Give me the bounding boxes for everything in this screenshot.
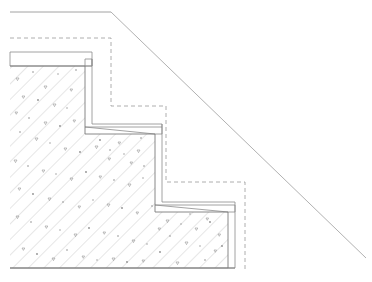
aggregate-mark bbox=[32, 71, 34, 73]
aggregate-mark bbox=[199, 245, 200, 246]
step-nosing-upper bbox=[85, 59, 92, 66]
aggregate-mark bbox=[66, 107, 67, 108]
aggregate-mark bbox=[28, 117, 30, 119]
concrete-body-group bbox=[10, 66, 228, 268]
aggregate-mark bbox=[27, 165, 29, 167]
aggregate-mark bbox=[19, 131, 21, 133]
aggregate-mark bbox=[209, 221, 211, 223]
aggregate-mark bbox=[36, 253, 38, 255]
concrete-hatch-fill bbox=[10, 66, 228, 268]
right-closure-line bbox=[228, 205, 235, 268]
aggregate-mark bbox=[123, 153, 124, 154]
aggregate-mark bbox=[30, 221, 32, 223]
aggregate-mark bbox=[204, 259, 206, 261]
aggregate-mark bbox=[117, 235, 119, 237]
aggregate-mark bbox=[143, 165, 145, 167]
aggregate-mark bbox=[126, 261, 128, 263]
aggregate-mark bbox=[59, 229, 60, 230]
step-nosing-lower bbox=[155, 205, 235, 212]
aggregate-mark bbox=[169, 235, 171, 237]
upper-ledge-rectangle bbox=[10, 52, 92, 66]
riser-outline-upper bbox=[92, 59, 162, 127]
aggregate-mark bbox=[113, 179, 115, 181]
aggregate-mark bbox=[151, 205, 153, 207]
cad-drawing-svg bbox=[0, 0, 372, 282]
aggregate-mark bbox=[62, 201, 64, 203]
aggregate-mark bbox=[121, 207, 123, 209]
aggregate-mark bbox=[180, 223, 181, 224]
aggregate-mark bbox=[189, 213, 190, 214]
aggregate-mark bbox=[142, 177, 143, 178]
aggregate-mark bbox=[55, 173, 56, 174]
aggregate-mark bbox=[96, 259, 97, 260]
riser-outline-lower bbox=[162, 124, 235, 205]
aggregate-mark bbox=[92, 199, 93, 200]
step-nosing-middle bbox=[85, 127, 162, 134]
aggregate-mark bbox=[221, 245, 223, 247]
aggregate-mark bbox=[57, 73, 58, 74]
aggregate-mark bbox=[59, 125, 61, 127]
aggregate-mark bbox=[32, 193, 34, 195]
aggregate-mark bbox=[75, 69, 77, 71]
aggregate-mark bbox=[159, 251, 161, 253]
aggregate-mark bbox=[79, 151, 81, 153]
aggregate-mark bbox=[146, 243, 147, 244]
aggregate-mark bbox=[109, 149, 111, 151]
aggregate-mark bbox=[37, 99, 39, 101]
aggregate-mark bbox=[99, 139, 101, 141]
aggregate-mark bbox=[140, 137, 142, 139]
aggregate-mark bbox=[49, 142, 50, 143]
aggregate-mark bbox=[88, 227, 90, 229]
technical-drawing-canvas bbox=[0, 0, 372, 282]
aggregate-mark bbox=[66, 249, 68, 251]
aggregate-mark bbox=[85, 171, 87, 173]
